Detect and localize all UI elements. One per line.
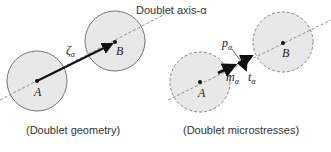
point-b-dot-right	[281, 41, 285, 45]
p-alpha-leader	[232, 49, 240, 60]
point-b-label-right: B	[282, 47, 289, 59]
point-a-dot-right	[198, 80, 202, 84]
zeta-alpha-label: ζα	[66, 44, 75, 59]
t-alpha-label: tα	[248, 71, 256, 86]
left-caption: (Doublet geometry)	[26, 124, 120, 136]
doublet-axis-label: Doublet axis-α	[136, 4, 207, 16]
right-panel-microstresses	[168, 12, 331, 112]
point-a-label: A	[34, 86, 41, 98]
point-a-dot	[35, 79, 39, 83]
p-alpha-label: pα	[222, 37, 232, 52]
point-a-label-right: A	[198, 87, 205, 99]
left-panel-geometry	[0, 11, 165, 111]
right-caption: (Doublet microstresses)	[183, 124, 299, 136]
point-b-label: B	[116, 45, 123, 57]
m-alpha-label: mα	[226, 71, 239, 86]
